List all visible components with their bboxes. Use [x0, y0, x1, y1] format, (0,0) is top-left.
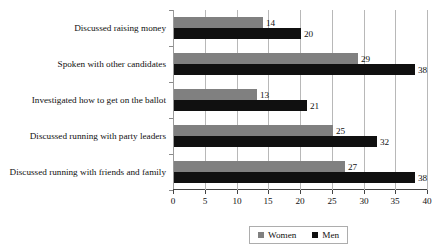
x-tick-mark [205, 190, 206, 194]
x-tick-label: 5 [190, 196, 220, 207]
plot-area: 0510152025303540 14291325272038213238 [173, 10, 427, 190]
bar-value-label: 38 [418, 65, 427, 75]
x-tick-label: 10 [222, 196, 252, 207]
x-tick-mark [364, 190, 365, 194]
bar-women-3 [174, 125, 333, 136]
legend: WomenMen [249, 226, 348, 244]
legend-item-women[interactable]: Women [258, 230, 296, 240]
y-tick-mark [169, 10, 173, 11]
x-tick-label: 20 [285, 196, 315, 207]
category-label: Discussed running with friends and famil… [0, 167, 166, 177]
x-tick-mark [332, 190, 333, 194]
bar-value-label: 20 [304, 29, 313, 39]
bar-value-label: 14 [266, 18, 275, 28]
x-tick-mark [268, 190, 269, 194]
bar-value-label: 13 [260, 90, 269, 100]
x-tick-label: 40 [412, 196, 438, 207]
bar-men-4 [174, 172, 415, 183]
category-axis-labels: Discussed raising moneySpoken with other… [0, 10, 170, 190]
bar-chart: Discussed raising moneySpoken with other… [0, 0, 438, 251]
bar-value-label: 32 [380, 137, 389, 147]
bar-value-label: 29 [361, 54, 370, 64]
legend-label: Women [268, 230, 296, 240]
x-tick-mark [395, 190, 396, 194]
x-tick-mark [237, 190, 238, 194]
x-tick-label: 25 [317, 196, 347, 207]
x-tick-mark [300, 190, 301, 194]
bar-men-3 [174, 136, 377, 147]
x-tick-label: 35 [380, 196, 410, 207]
x-tick-mark [427, 190, 428, 194]
bar-women-2 [174, 89, 257, 100]
gridline [427, 10, 428, 190]
bar-women-1 [174, 53, 358, 64]
category-label: Discussed raising money [0, 23, 166, 33]
bar-value-label: 21 [310, 101, 319, 111]
y-tick-mark [169, 46, 173, 47]
legend-swatch-icon [258, 232, 264, 238]
gridline [395, 10, 396, 190]
bar-value-label: 38 [418, 173, 427, 183]
legend-label: Men [322, 230, 339, 240]
bar-men-2 [174, 100, 307, 111]
y-tick-mark [169, 82, 173, 83]
bar-men-0 [174, 28, 301, 39]
bar-value-label: 27 [348, 162, 357, 172]
x-tick-label: 30 [349, 196, 379, 207]
category-label: Investigated how to get on the ballot [0, 95, 166, 105]
x-tick-label: 15 [253, 196, 283, 207]
legend-swatch-icon [312, 232, 318, 238]
bar-women-4 [174, 161, 345, 172]
legend-item-men[interactable]: Men [312, 230, 339, 240]
bar-women-0 [174, 17, 263, 28]
bar-value-label: 25 [336, 126, 345, 136]
y-tick-mark [169, 154, 173, 155]
y-tick-mark [169, 118, 173, 119]
gridline [364, 10, 365, 190]
category-label: Spoken with other candidates [0, 59, 166, 69]
x-tick-mark [173, 190, 174, 194]
category-label: Discussed running with party leaders [0, 131, 166, 141]
x-tick-label: 0 [158, 196, 188, 207]
y-tick-mark [169, 190, 173, 191]
bar-men-1 [174, 64, 415, 75]
